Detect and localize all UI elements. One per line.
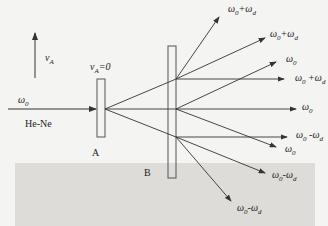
plate-a-label: A xyxy=(92,148,99,158)
output-label-4: ω0 +ωd xyxy=(295,73,325,86)
output-label-8: ω0-ωd xyxy=(272,170,296,183)
output-label-2: ω0+ωd xyxy=(270,29,298,42)
velocity-label: vA xyxy=(45,53,54,66)
ray-7 xyxy=(176,109,276,147)
output-label-7: ω0 xyxy=(285,144,296,157)
output-label-1: ω0+ωd xyxy=(228,4,256,17)
source-label: He-Ne xyxy=(25,119,52,129)
ray-9 xyxy=(176,137,231,201)
plate-a xyxy=(97,79,105,137)
input-beam-label: ω0 xyxy=(18,95,29,108)
plate-b xyxy=(168,46,176,178)
ray-1 xyxy=(176,17,219,79)
output-label-3: ω0 xyxy=(286,54,297,67)
output-label-6: ω0 -ωd xyxy=(296,130,323,143)
output-label-9: ω0-ωd xyxy=(237,203,261,216)
plate-b-label: B xyxy=(144,168,151,178)
ray-8 xyxy=(176,137,265,173)
output-label-5: ω0 xyxy=(302,102,313,115)
ray-3 xyxy=(176,62,276,109)
ray-2 xyxy=(176,38,265,79)
velocity-zero-label: vA=0 xyxy=(90,62,110,75)
